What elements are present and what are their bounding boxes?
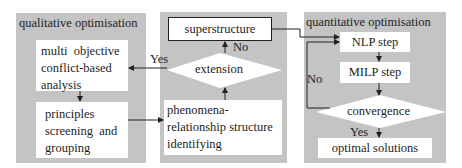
convergence-yes-label: Yes	[350, 125, 368, 140]
extension-decision-label: extension	[195, 62, 243, 77]
superstructure-to-nlp-arrow	[272, 29, 339, 37]
convergence-decision-label: convergence	[347, 104, 410, 119]
connectors-layer	[0, 0, 462, 168]
convergence-no-label: No	[307, 72, 322, 87]
extension-no-label: No	[233, 40, 248, 55]
extension-yes-label: Yes	[150, 52, 168, 67]
